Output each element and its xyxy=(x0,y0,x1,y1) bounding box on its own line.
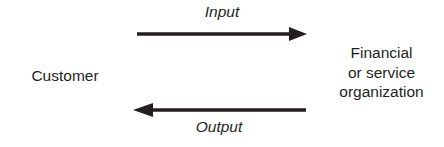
arrows-layer xyxy=(0,0,444,147)
arrow-input-head-icon xyxy=(289,27,307,41)
diagram-canvas: Customer Financial or service organizati… xyxy=(0,0,444,147)
arrow-output xyxy=(133,103,306,117)
arrow-input xyxy=(137,27,307,41)
arrow-output-head-icon xyxy=(133,103,153,117)
